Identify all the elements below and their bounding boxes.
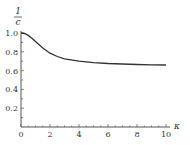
data-line	[21, 33, 166, 65]
x-tick-label: 4	[76, 130, 81, 139]
x-tick-label: 8	[134, 130, 139, 139]
x-tick-label: 0	[18, 130, 23, 139]
y-tick-label: 1.0	[5, 29, 18, 38]
x-tick-label: 2	[47, 130, 52, 139]
x-tick-label: 6	[105, 130, 110, 139]
y-axis-label-numerator: 1	[15, 6, 21, 16]
y-axis: 0.20.40.60.81.0	[5, 29, 24, 127]
y-tick-label: 0.4	[5, 85, 18, 94]
y-tick-label: 0.8	[5, 48, 18, 57]
y-axis-label-denominator: c	[15, 17, 20, 27]
x-tick-label: 10	[161, 130, 171, 139]
x-axis-label: κ	[173, 121, 180, 131]
x-axis: 0246810	[18, 124, 171, 139]
chart: 0.20.40.60.81.0 0246810 1 c κ	[0, 0, 190, 145]
y-tick-label: 0.2	[5, 104, 18, 113]
y-tick-label: 0.6	[5, 67, 18, 76]
